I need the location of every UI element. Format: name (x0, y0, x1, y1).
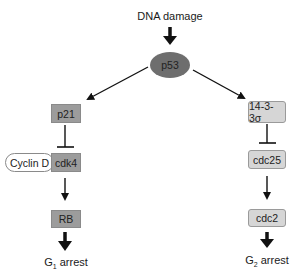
node-cdc2: cdc2 (248, 209, 286, 227)
arrow-p53-to-p21 (88, 67, 148, 99)
node-14-3-3-sigma: 14-3-3σ (248, 101, 286, 123)
arrow-p53-to-sigma (193, 70, 244, 98)
node-cyclin-d: Cyclin D (5, 153, 54, 172)
dna-damage-label: DNA damage (130, 10, 210, 22)
node-p21: p21 (51, 104, 81, 123)
node-cdc25: cdc25 (248, 150, 286, 169)
thick-arrow-dna-to-p53 (163, 27, 177, 45)
thick-arrow-cdc2-to-g2 (260, 232, 274, 248)
arrow-cdc25-to-cdc2 (263, 176, 271, 200)
pathway-connectors (0, 0, 293, 279)
g1-arrest-label: G1 arrest (35, 256, 97, 270)
g2-arrest-label: G2 arrest (236, 254, 293, 268)
inhibit-sigma-to-cdc25 (259, 124, 276, 143)
inhibit-p21-to-cdk4 (57, 125, 74, 147)
node-rb: RB (51, 210, 81, 228)
node-p53: p53 (150, 52, 190, 78)
thick-arrow-rb-to-g1 (58, 232, 72, 251)
node-cdk4: cdk4 (51, 153, 81, 172)
arrow-cdk4-to-rb (61, 178, 69, 201)
